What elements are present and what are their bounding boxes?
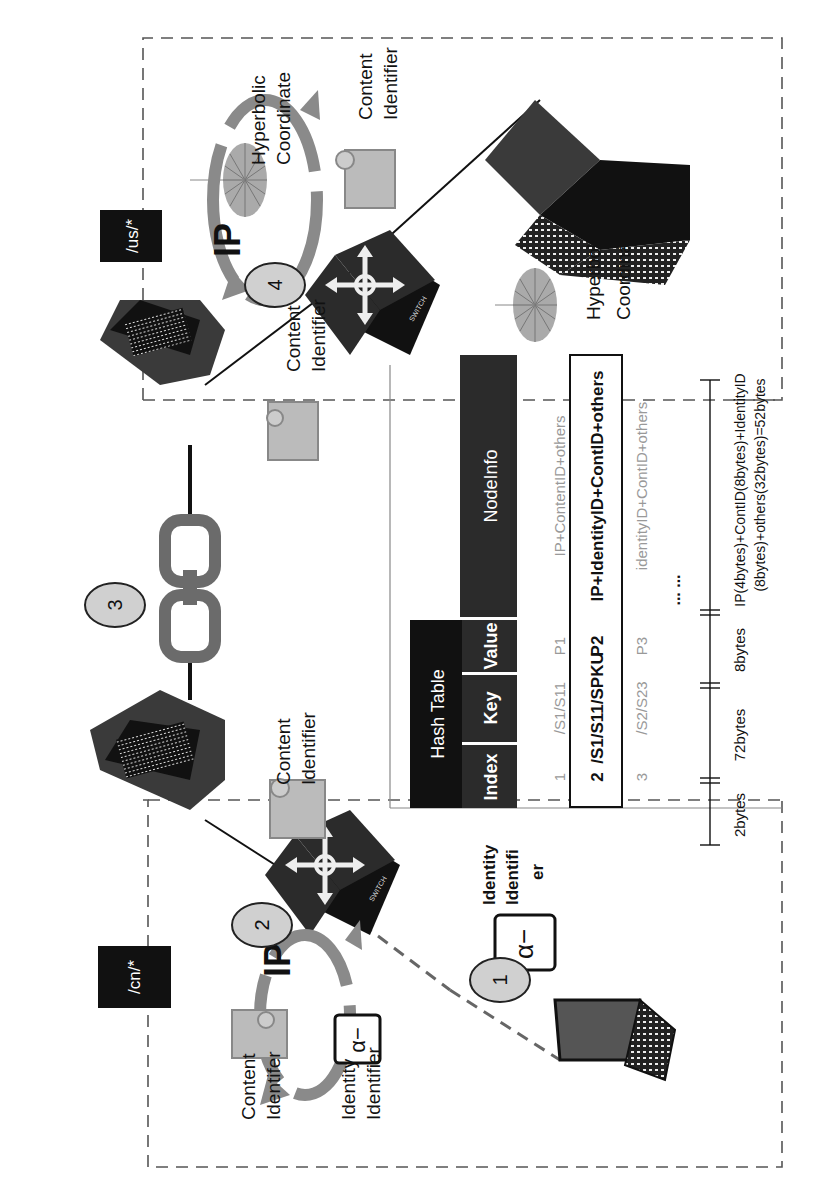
svg-text:/cn/*: /cn/* <box>125 960 144 994</box>
hash-table-row-1: 1 /S1/S11 P1 IP+ContentID+others <box>551 416 568 782</box>
svg-text:IP+IdentityID+ContID+others: IP+IdentityID+ContID+others <box>588 371 607 602</box>
svg-text:Identifier: Identifier <box>308 298 329 372</box>
step-1-badge: 1 <box>470 958 530 1002</box>
svg-text:Coordinate: Coordinate <box>273 72 294 165</box>
network-diagram: /us/* /cn/* <box>0 0 837 1191</box>
svg-text:IP+ContentID+others: IP+ContentID+others <box>551 416 568 557</box>
step-3-badge: 3 <box>85 583 145 627</box>
svg-text:Identity: Identity <box>338 1058 359 1120</box>
svg-text:4: 4 <box>264 279 286 290</box>
step-2-badge: 2 <box>232 903 292 947</box>
svg-text:Hyperbolic: Hyperbolic <box>248 75 269 165</box>
label-identity-identifier-user: Identity Identifi er <box>480 844 547 905</box>
svg-text:(8bytes)+others(32bytes)=52byt: (8bytes)+others(32bytes)=52bytes <box>752 378 768 591</box>
svg-text:α−: α− <box>509 929 539 959</box>
content-doc-icon-server-us <box>267 402 318 460</box>
svg-text:/S2/S23: /S2/S23 <box>633 681 650 734</box>
size-ruler <box>700 380 720 845</box>
svg-text:P2: P2 <box>588 636 607 657</box>
hyperbolic-icon-right <box>495 268 557 342</box>
svg-text:Hyperbolic: Hyperbolic <box>583 230 604 320</box>
svg-text:NodeInfo: NodeInfo <box>481 449 501 522</box>
hash-table-row-3: 3 /S2/S23 P3 identityID+ContID+others <box>633 402 650 781</box>
content-doc-icon-server-cn <box>270 779 325 838</box>
content-doc-icon-top <box>336 150 395 208</box>
svg-text:identityID+ContID+others: identityID+ContID+others <box>633 402 650 570</box>
svg-text:P3: P3 <box>633 637 650 655</box>
svg-text:Identifier: Identifier <box>380 46 401 120</box>
svg-text:IP(4bytes)+ContID(8bytes)+Iden: IP(4bytes)+ContID(8bytes)+IdentityID <box>732 373 748 606</box>
svg-text:2: 2 <box>588 772 607 781</box>
server-icon-us <box>100 300 225 385</box>
svg-text:Content: Content <box>283 305 304 372</box>
svg-text:72bytes: 72bytes <box>731 709 748 762</box>
svg-text:er: er <box>528 864 547 880</box>
svg-text:3: 3 <box>633 773 650 781</box>
region-cn-label: /cn/* <box>98 946 171 1008</box>
svg-text:P1: P1 <box>551 637 568 655</box>
svg-text:1: 1 <box>489 974 511 985</box>
svg-text:Identifi: Identifi <box>503 849 522 905</box>
svg-text:IP: IP <box>207 223 248 257</box>
link-chain-icon <box>165 520 215 657</box>
svg-text:Hash Table: Hash Table <box>428 669 448 759</box>
svg-text:/us/*: /us/* <box>123 219 142 253</box>
svg-text:Content: Content <box>273 718 294 785</box>
svg-text:Index: Index <box>481 753 501 800</box>
svg-text:3: 3 <box>104 599 126 610</box>
svg-text:/S1/S11: /S1/S11 <box>551 682 568 734</box>
label-content-identifier-server: Content Identifier <box>273 711 319 785</box>
hash-table-ellipsis: ... ... <box>666 574 683 605</box>
svg-text:2: 2 <box>251 919 273 930</box>
svg-text:Content: Content <box>355 53 376 120</box>
hash-table-row-2: 2 /S1/S11/SPKU P2 IP+IdentityID+ContID+o… <box>570 355 622 807</box>
label-hyperbolic-top: Hyperbolic Coordinate <box>248 72 294 165</box>
ip-logo-cn: IP <box>257 943 298 977</box>
svg-text:/S1/S11/SPKU: /S1/S11/SPKU <box>588 652 607 764</box>
svg-text:Identifer: Identifer <box>263 1051 284 1120</box>
svg-text:Coordinate: Coordinate <box>613 227 634 320</box>
svg-text:Key: Key <box>481 691 501 724</box>
content-doc-icon-cn <box>232 1010 287 1058</box>
region-us-label: /us/* <box>100 210 162 262</box>
hash-table-header: Hash Table Index Key Value NodeInfo <box>410 355 517 808</box>
svg-text:Value: Value <box>481 622 501 669</box>
svg-text:Identity: Identity <box>480 844 499 905</box>
laptop-icon <box>555 1000 675 1080</box>
svg-text:IP: IP <box>257 943 298 977</box>
size-labels: 2bytes 72bytes 8bytes IP(4bytes)+ContID(… <box>731 373 768 837</box>
ip-logo-us: IP <box>207 223 248 257</box>
label-content-identifier-top: Content Identifier <box>355 46 401 120</box>
svg-text:Identifier: Identifier <box>363 1046 384 1120</box>
svg-text:Content: Content <box>238 1053 259 1120</box>
svg-text:Identifier: Identifier <box>298 711 319 785</box>
svg-text:1: 1 <box>551 773 568 781</box>
server-icon-cn <box>90 690 225 810</box>
label-content-identifier-cn: Content Identifer <box>238 1051 284 1120</box>
svg-text:8bytes: 8bytes <box>731 628 748 672</box>
step-4-badge: 4 <box>245 263 305 307</box>
svg-text:2bytes: 2bytes <box>731 793 748 837</box>
